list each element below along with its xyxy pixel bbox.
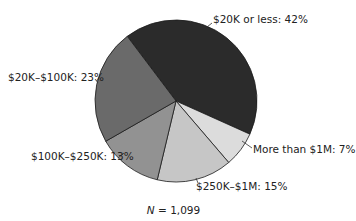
label-20k-100k: $20K–$100K: 23% bbox=[8, 71, 104, 83]
label-20k-or-less: $20K or less: 42% bbox=[213, 13, 308, 25]
label-250k-1m: $250K–$1M: 15% bbox=[196, 180, 288, 192]
note-variable: N bbox=[147, 204, 155, 216]
label-more-than-1m: More than $1M: 7% bbox=[253, 143, 356, 155]
note-value: = 1,099 bbox=[158, 204, 200, 216]
label-100k-250k: $100K–$250K: 13% bbox=[31, 150, 134, 162]
sample-size-note: N = 1,099 bbox=[0, 204, 347, 216]
leader-line-0 bbox=[207, 23, 212, 27]
